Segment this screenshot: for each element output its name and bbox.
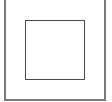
- square-stop-icon: [25, 20, 85, 80]
